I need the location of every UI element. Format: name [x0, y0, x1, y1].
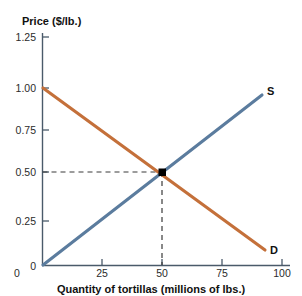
equilibrium-marker	[159, 169, 167, 177]
y-tick-label-1-25: 1.25	[0, 32, 36, 43]
supply-curve	[43, 95, 262, 265]
supply-curve-label: S	[267, 86, 274, 97]
x-tick-label-50: 50	[151, 268, 173, 279]
x-tick-label-0: 0	[6, 268, 28, 279]
x-tick-label-25: 25	[91, 268, 113, 279]
y-axis-title: Price ($/lb.)	[22, 16, 81, 27]
y-tick-label-0-75: 0.75	[0, 125, 36, 136]
x-axis-title: Quantity of tortillas (millions of lbs.)	[0, 284, 302, 295]
y-axis-ticks	[43, 37, 50, 221]
y-tick-label-0-25: 0.25	[0, 216, 36, 227]
demand-curve-label: D	[270, 245, 278, 256]
x-axis-ticks	[102, 259, 282, 266]
demand-curve	[43, 88, 265, 250]
y-tick-label-1-00: 1.00	[0, 83, 36, 94]
x-tick-label-100: 100	[269, 268, 295, 279]
supply-demand-chart: Price ($/lb.) 1.25 1.00 0.75 0.50 0.25 0…	[0, 0, 302, 296]
y-tick-label-0-50: 0.50	[0, 167, 36, 178]
x-tick-label-75: 75	[211, 268, 233, 279]
chart-canvas	[0, 0, 302, 296]
